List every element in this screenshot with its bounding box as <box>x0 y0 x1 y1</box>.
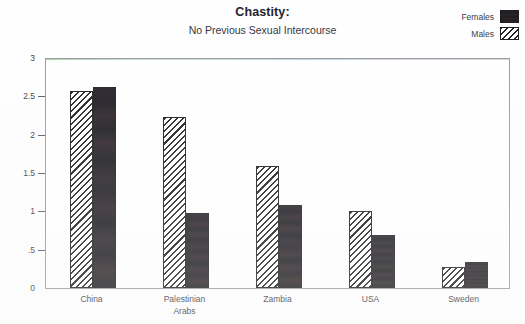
bar-females-palestinian-arabs[interactable] <box>186 213 209 288</box>
category-label-sweden: Sweden <box>417 294 510 306</box>
bar-males-sweden[interactable] <box>442 267 465 288</box>
category-label-palestinian-arabs-line1: Palestinian <box>138 294 231 306</box>
category-label-sweden-line1: Sweden <box>417 294 510 306</box>
y-tick-label-1: 1 <box>1 207 35 216</box>
bar-males-palestinian-arabs[interactable] <box>163 117 186 288</box>
bar-group-zambia: N = 119 p < .001 <box>232 57 325 288</box>
legend-item-females: Females <box>389 8 519 25</box>
category-label-zambia: Zambia <box>231 294 324 306</box>
bar-group-palestinian-arabs: N = 109 P < .0001 <box>139 57 232 288</box>
y-tick-label-1-5: 1.5 <box>1 169 35 178</box>
legend-item-males: Males <box>389 25 519 42</box>
legend-swatch-females-icon <box>500 10 519 23</box>
y-tick-label-2-5: 2.5 <box>1 92 35 101</box>
category-label-zambia-line1: Zambia <box>231 294 324 306</box>
y-tick-label-0-5: .5 <box>1 246 35 255</box>
category-label-china-line1: China <box>45 294 138 306</box>
legend: Females Males <box>389 8 519 42</box>
bar-males-china[interactable] <box>70 91 93 288</box>
category-label-palestinian-arabs: Palestinian Arabs <box>138 294 231 317</box>
bars-zambia <box>232 57 325 288</box>
bar-females-usa[interactable] <box>372 235 395 288</box>
bars-sweden <box>418 57 511 288</box>
bars-china <box>46 57 139 288</box>
y-tick-label-2: 2 <box>1 131 35 140</box>
legend-label-females: Females <box>461 12 494 22</box>
category-label-china: China <box>45 294 138 306</box>
bar-females-china[interactable] <box>93 87 116 288</box>
plot-area: N = 500 NS N = 109 P < .0001 N = 119 <box>45 58 510 289</box>
bar-group-usa: N = 1,492 p < .0001 <box>325 57 418 288</box>
category-label-usa: USA <box>324 294 417 306</box>
bar-males-usa[interactable] <box>349 211 372 288</box>
chart-figure: Chastity: No Previous Sexual Intercourse… <box>0 0 525 324</box>
legend-label-males: Males <box>471 29 494 39</box>
bars-palestinian-arabs <box>139 57 232 288</box>
category-label-usa-line1: USA <box>324 294 417 306</box>
bar-group-china: N = 500 NS <box>46 57 139 288</box>
legend-swatch-males-icon <box>500 27 519 40</box>
bar-females-sweden[interactable] <box>465 262 488 288</box>
category-label-palestinian-arabs-line2: Arabs <box>138 306 231 318</box>
bar-group-sweden: N = 172 NS <box>418 57 511 288</box>
y-tick-label-0: 0 <box>1 284 35 293</box>
bar-females-zambia[interactable] <box>279 205 302 288</box>
bars-usa <box>325 57 418 288</box>
y-tick-label-3: 3 <box>1 54 35 63</box>
bar-males-zambia[interactable] <box>256 166 279 288</box>
